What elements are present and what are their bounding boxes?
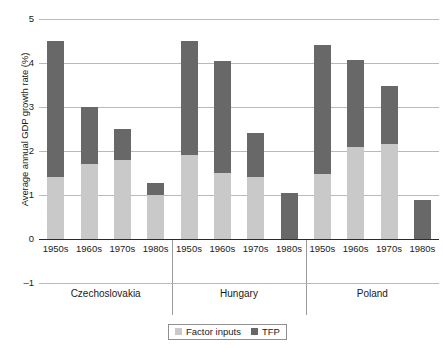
y-axis-title: Average annual GDP growth rate (%) bbox=[19, 10, 30, 250]
legend-swatch-icon bbox=[251, 328, 258, 335]
gridline-minus1 bbox=[39, 283, 439, 284]
bar-segment-factor-inputs bbox=[47, 177, 64, 239]
group-label-poland: Poland bbox=[306, 288, 439, 299]
bar bbox=[114, 129, 131, 239]
bar-segment-factor-inputs bbox=[347, 147, 364, 239]
bar bbox=[347, 60, 364, 239]
chart-legend: Factor inputsTFP bbox=[168, 324, 287, 340]
bar bbox=[314, 45, 331, 239]
gdp-growth-decomposition-chart: Average annual GDP growth rate (%) 54321… bbox=[0, 0, 443, 349]
y-tick-label-4: 4 bbox=[16, 58, 34, 68]
group-label-czechoslovakia: Czechoslovakia bbox=[39, 288, 172, 299]
bar-segment-tfp bbox=[247, 133, 264, 177]
gridline-2 bbox=[39, 151, 439, 152]
bar-segment-factor-inputs bbox=[247, 177, 264, 239]
legend-label: Factor inputs bbox=[186, 327, 241, 337]
legend-swatch-icon bbox=[175, 328, 182, 335]
x-axis-tick-labels: 1950s1960s1970s1980s1950s1960s1970s1980s… bbox=[39, 243, 439, 259]
bar bbox=[47, 41, 64, 239]
bar bbox=[147, 183, 164, 239]
bar-segment-factor-inputs bbox=[114, 160, 131, 239]
bar-segment-tfp bbox=[81, 107, 98, 164]
bar-segment-tfp bbox=[414, 200, 431, 239]
group-label-hungary: Hungary bbox=[172, 288, 305, 299]
bar-segment-tfp bbox=[314, 45, 331, 173]
plot-area bbox=[39, 19, 439, 239]
y-tick-label-3: 3 bbox=[16, 102, 34, 112]
bar-segment-factor-inputs bbox=[81, 164, 98, 239]
group-separator bbox=[172, 240, 173, 315]
legend-item[interactable]: Factor inputs bbox=[175, 327, 241, 337]
bar-segment-factor-inputs bbox=[181, 155, 198, 239]
bar bbox=[247, 133, 264, 239]
bar bbox=[281, 193, 298, 239]
bar bbox=[214, 61, 231, 239]
legend-item[interactable]: TFP bbox=[251, 327, 280, 337]
bar-segment-tfp bbox=[281, 193, 298, 239]
bar bbox=[414, 200, 431, 239]
bar bbox=[181, 41, 198, 239]
bar-segment-tfp bbox=[147, 183, 164, 195]
bar-segment-tfp bbox=[181, 41, 198, 155]
bar-segment-tfp bbox=[347, 60, 364, 147]
bar-segment-factor-inputs bbox=[147, 195, 164, 239]
gridline-1 bbox=[39, 195, 439, 196]
y-tick-label-0: 0 bbox=[16, 234, 34, 244]
gridline-4 bbox=[39, 63, 439, 64]
y-tick-label-minus1: –1 bbox=[16, 278, 34, 288]
gridline-5 bbox=[39, 19, 439, 20]
gridline-3 bbox=[39, 107, 439, 108]
bar-segment-factor-inputs bbox=[314, 174, 331, 239]
y-tick-label-1: 1 bbox=[16, 190, 34, 200]
axis-baseline bbox=[39, 239, 439, 240]
bar-segment-tfp bbox=[47, 41, 64, 177]
bar-segment-tfp bbox=[114, 129, 131, 160]
bar-segment-factor-inputs bbox=[381, 144, 398, 239]
y-tick-label-2: 2 bbox=[16, 146, 34, 156]
bar-segment-tfp bbox=[381, 86, 398, 143]
group-separator bbox=[306, 240, 307, 315]
x-tick-label: 1980s bbox=[402, 243, 442, 254]
bar-segment-tfp bbox=[214, 61, 231, 173]
y-tick-label-5: 5 bbox=[16, 14, 34, 24]
bar bbox=[81, 107, 98, 239]
legend-label: TFP bbox=[262, 327, 280, 337]
bar bbox=[381, 86, 398, 239]
bar-segment-factor-inputs bbox=[214, 173, 231, 239]
